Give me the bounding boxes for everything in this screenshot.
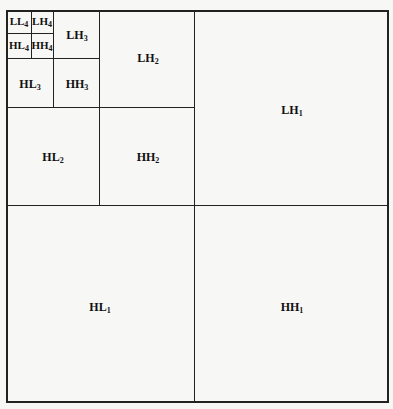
subband-level: 2	[155, 156, 159, 165]
subband-level: 3	[84, 34, 88, 43]
subband-label-lh2: LH2	[137, 51, 158, 66]
subband-level: 1	[107, 306, 111, 315]
subband-base: LH	[281, 103, 298, 117]
divider-l1-horizontal	[6, 205, 389, 206]
subband-label-hl1: HL1	[89, 300, 110, 315]
subband-label-hh2: HH2	[137, 150, 160, 165]
subband-level: 2	[155, 57, 159, 66]
frame-bottom	[6, 401, 389, 403]
subband-label-hh3: HH3	[66, 77, 89, 92]
subband-base: LH	[32, 15, 48, 27]
divider-l3-vertical	[53, 10, 54, 108]
divider-l2-vertical	[99, 10, 100, 206]
subband-base: HL	[9, 39, 25, 51]
divider-l2-horizontal	[6, 107, 195, 108]
subband-level: 1	[299, 109, 303, 118]
subband-base: HL	[42, 150, 59, 164]
subband-level: 4	[49, 44, 53, 53]
subband-level: 1	[299, 306, 303, 315]
subband-label-lh4: LH4	[32, 15, 52, 29]
subband-label-hh4: HH4	[31, 39, 52, 53]
subband-label-hh1: HH1	[281, 300, 304, 315]
divider-l3-horizontal	[6, 58, 100, 59]
subband-base: HH	[66, 77, 85, 91]
subband-label-hl3: HL3	[19, 77, 40, 92]
divider-l1-vertical	[194, 10, 195, 403]
subband-base: LH	[66, 28, 83, 42]
subband-level: 4	[25, 44, 29, 53]
frame-right	[387, 10, 389, 403]
frame-left	[6, 10, 8, 403]
subband-label-lh1: LH1	[281, 103, 302, 118]
subband-label-hl4: HL4	[9, 39, 29, 53]
subband-level: 3	[84, 83, 88, 92]
subband-base: HL	[89, 300, 106, 314]
subband-base: LL	[10, 15, 25, 27]
subband-level: 4	[24, 20, 28, 29]
subband-base: LH	[137, 51, 154, 65]
subband-label-ll4: LL4	[10, 15, 29, 29]
subband-base: HH	[281, 300, 300, 314]
subband-level: 2	[60, 156, 64, 165]
subband-base: HL	[19, 77, 36, 91]
subband-label-lh3: LH3	[66, 28, 87, 43]
subband-level: 4	[48, 20, 52, 29]
subband-level: 3	[37, 83, 41, 92]
subband-label-hl2: HL2	[42, 150, 63, 165]
frame-top	[6, 10, 389, 12]
subband-base: HH	[31, 39, 48, 51]
divider-l4-horizontal	[6, 33, 54, 34]
subband-base: HH	[137, 150, 156, 164]
